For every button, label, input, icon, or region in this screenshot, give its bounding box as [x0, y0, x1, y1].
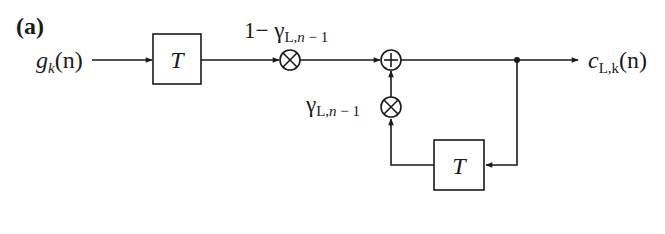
- multiplier-feedback: [381, 97, 401, 117]
- multiplier-forward: [280, 50, 300, 70]
- forward-coefficient-label: 1− γL,n − 1: [244, 18, 328, 45]
- output-label: cL,k(n): [588, 47, 647, 76]
- input-label: gk(n): [36, 47, 83, 76]
- delay-label: T: [452, 153, 467, 179]
- adder: [381, 50, 401, 70]
- block-diagram: (a) gk(n) T 1− γL,n − 1 cL,k(n) T: [0, 0, 665, 234]
- feedback-coefficient-label: γL,n − 1: [305, 92, 360, 119]
- panel-label: (a): [16, 13, 44, 39]
- delay-label: T: [170, 47, 185, 73]
- feedback-line: [486, 60, 517, 165]
- delay-to-feedback-multiplier-line: [391, 119, 434, 165]
- delay-block-forward: T: [153, 34, 201, 84]
- delay-block-feedback: T: [434, 140, 484, 190]
